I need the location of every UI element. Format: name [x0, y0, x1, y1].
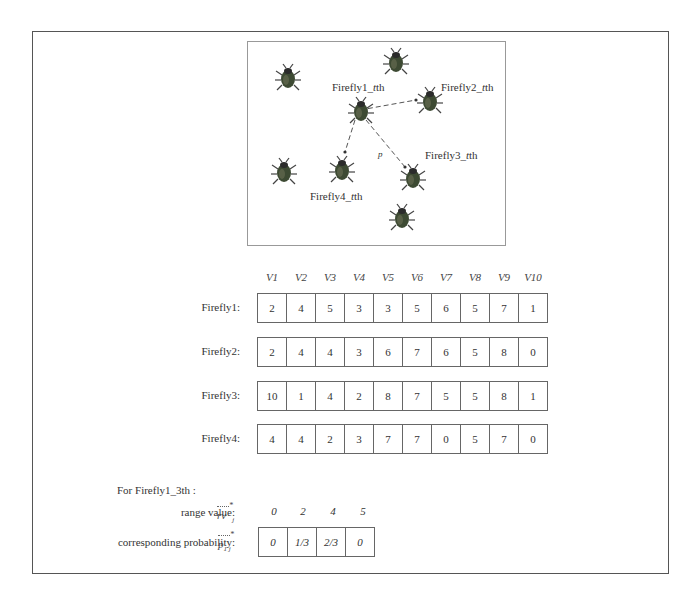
- vector-cell: 2: [315, 424, 345, 454]
- vector-cell: 3: [344, 424, 374, 454]
- vector-cell: 4: [315, 381, 345, 411]
- range-value: 4: [318, 505, 348, 517]
- vector-cell: 5: [460, 424, 490, 454]
- vector-cell: 1: [518, 381, 548, 411]
- vector-cell: 5: [460, 293, 490, 323]
- vector-header: V5: [373, 271, 403, 283]
- probability-cell: 0: [258, 527, 288, 557]
- vector-cell: 5: [460, 337, 490, 367]
- probability-table: 0 1/3 2/3 0: [259, 527, 375, 557]
- vector-header: V7: [431, 271, 461, 283]
- firefly1-vector: 2 4 5 3 3 5 6 5 7 1: [257, 293, 548, 323]
- vector-cell: 1: [518, 293, 548, 323]
- firefly3-vector: 10 1 4 2 8 7 5 5 8 1: [257, 381, 548, 411]
- range-value: 2: [288, 505, 318, 517]
- vector-header: V2: [286, 271, 316, 283]
- vector-cell: 1: [286, 381, 316, 411]
- corresponding-probability-label: corresponding probability:: [70, 536, 235, 548]
- vector-cell: 2: [344, 381, 374, 411]
- vector-cell: 2: [257, 337, 287, 367]
- firefly1-row-label: Firefly1:: [150, 301, 240, 313]
- vector-cell: 4: [286, 424, 316, 454]
- vector-cell: 8: [489, 381, 519, 411]
- vector-cell: 0: [518, 337, 548, 367]
- vector-cell: 7: [402, 337, 432, 367]
- vector-header: V6: [402, 271, 432, 283]
- firefly-illustration-panel: Firefly1_tth Firefly2_tth Firefly3_tth F…: [247, 41, 506, 246]
- vector-header: V3: [315, 271, 345, 283]
- firefly2-row-label: Firefly2:: [150, 345, 240, 357]
- vector-cell: 8: [489, 337, 519, 367]
- vector-cell: 4: [257, 424, 287, 454]
- range-value-symbol: * rvj: [217, 509, 234, 524]
- vector-cell: 2: [257, 293, 287, 323]
- firefly4-row-label: Firefly4:: [150, 432, 240, 444]
- firefly-swarm-illustration: [248, 42, 507, 247]
- vector-cell: 0: [431, 424, 461, 454]
- section-title: For Firefly1_3th :: [117, 484, 196, 496]
- vector-cell: 5: [315, 293, 345, 323]
- vector-cell: 6: [431, 337, 461, 367]
- range-value: 0: [259, 505, 289, 517]
- vector-cell: 7: [489, 293, 519, 323]
- vector-cell: 4: [286, 337, 316, 367]
- vector-cell: 7: [373, 424, 403, 454]
- vector-cell: 4: [315, 337, 345, 367]
- firefly4-label: Firefly4_tth: [310, 190, 363, 202]
- range-value: 5: [348, 505, 378, 517]
- vector-header: V8: [460, 271, 490, 283]
- firefly4-vector: 4 4 2 3 7 7 0 5 7 0: [257, 424, 548, 454]
- p-marker: p: [378, 149, 383, 159]
- vector-cell: 0: [518, 424, 548, 454]
- vector-cell: 6: [373, 337, 403, 367]
- vector-header: V4: [344, 271, 374, 283]
- vector-header: V9: [489, 271, 519, 283]
- vector-cell: 5: [402, 293, 432, 323]
- vector-cell: 7: [402, 424, 432, 454]
- vector-cell: 5: [431, 381, 461, 411]
- vector-cell: 10: [257, 381, 287, 411]
- vector-cell: 3: [373, 293, 403, 323]
- firefly3-label: Firefly3_tth: [425, 149, 478, 161]
- vector-cell: 7: [402, 381, 432, 411]
- probability-symbol: * p1 j: [218, 538, 231, 553]
- probability-cell: 0: [345, 527, 375, 557]
- firefly3-row-label: Firefly3:: [150, 389, 240, 401]
- firefly1-label: Firefly1_tth: [332, 81, 385, 93]
- probability-cell: 1/3: [287, 527, 317, 557]
- vector-cell: 3: [344, 293, 374, 323]
- vector-cell: 7: [489, 424, 519, 454]
- vector-cell: 6: [431, 293, 461, 323]
- vector-cell: 8: [373, 381, 403, 411]
- vector-header: V1: [257, 271, 287, 283]
- firefly2-label: Firefly2_tth: [441, 81, 494, 93]
- firefly2-vector: 2 4 4 3 6 7 6 5 8 0: [257, 337, 548, 367]
- vector-cell: 3: [344, 337, 374, 367]
- vector-cell: 5: [460, 381, 490, 411]
- vector-header: V10: [518, 271, 548, 283]
- vector-cell: 4: [286, 293, 316, 323]
- probability-cell: 2/3: [316, 527, 346, 557]
